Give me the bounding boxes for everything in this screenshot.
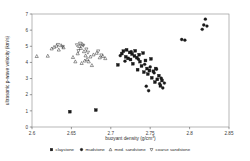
data-point [94,109,97,112]
data-point [156,78,159,81]
data-point [142,71,145,74]
chart-legend: claystonemudstonemed. sandstonecoarse sa… [50,147,191,152]
data-point [68,110,71,113]
data-point [158,82,161,85]
data-point [140,65,143,68]
y-tick-label: 3 [25,76,28,81]
legend-label-mudstone: mudstone [86,147,106,152]
data-point [150,76,153,79]
y-tick-label: 2 [25,92,28,97]
legend-label-med-sandstone: med. sandstone [115,147,147,152]
data-point [143,63,146,66]
x-axis-label-main: buoyant density (g/cm [105,136,152,141]
data-point [148,69,151,72]
y-tick-label: 0 [25,125,28,130]
y-tick-label: 4 [25,60,28,65]
y-tick-label: 6 [25,28,28,33]
data-point [137,58,140,61]
data-point [124,60,127,63]
x-axis-label: buoyant density (g/cm3) [105,135,156,141]
data-point [153,81,156,84]
data-point [161,86,164,89]
data-point [150,57,153,60]
legend-marker-claystone [50,148,53,151]
data-point [163,82,166,85]
data-point [155,68,158,71]
x-tick-label: 2.8 [186,131,193,136]
legend-marker-mudstone [80,148,83,151]
data-point [116,63,119,66]
data-point [129,58,132,61]
data-point [201,28,204,31]
data-point [136,68,139,71]
data-point [130,50,133,53]
y-axis-label: ultrasonic p-wave velocity (km/s) [5,35,10,105]
data-point [183,39,186,42]
data-point [180,38,183,41]
data-point [119,54,122,57]
data-point [134,49,137,52]
data-point [131,62,134,65]
x-tick-label: 2.65 [67,131,76,136]
y-tick-label: 5 [25,44,28,49]
data-point [205,25,208,28]
data-point [153,71,156,74]
data-point [149,65,152,68]
y-tick-label: 7 [25,12,28,17]
data-point [142,52,145,55]
scatter-chart: 2.62.652.72.752.82.85 01234567 buoyant d… [0,0,250,161]
data-point [157,74,160,77]
data-point [146,73,149,76]
legend-label-coarse-sandstone: coarse sandstone [156,147,191,152]
data-point [147,89,150,92]
data-point [204,18,207,21]
data-point [202,24,205,27]
data-point [122,50,125,53]
y-tick-label: 1 [25,109,28,114]
data-point [145,85,148,88]
data-point [144,59,147,62]
data-point [125,48,128,51]
x-tick-label: 2.6 [29,131,36,136]
data-point [138,53,141,56]
x-tick-label: 2.85 [225,131,234,136]
data-point [160,77,163,80]
legend-label-claystone: claystone [56,147,75,152]
